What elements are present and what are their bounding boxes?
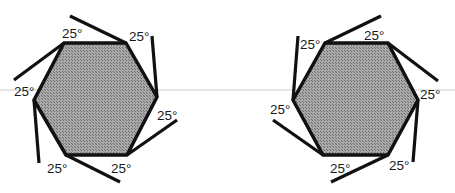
left-hexagon [34, 43, 157, 155]
right-hexagon-group: 25° 25° 25° 25° 25° 25° [270, 16, 440, 182]
left-angle-label-2: 25° [129, 29, 149, 44]
right-angle-label-3: 25° [420, 87, 440, 102]
right-angle-label-6: 25° [270, 102, 290, 117]
right-angle-label-2: 25° [364, 28, 384, 43]
right-angle-label-4: 25° [389, 158, 409, 173]
left-angle-label-3: 25° [157, 108, 177, 123]
left-angle-label-1: 25° [62, 26, 82, 41]
hexagon-angle-diagram: 25° 25° 25° 25° 25° 25° 25° 25° 25° 25° … [0, 0, 455, 193]
left-angle-label-5: 25° [47, 161, 67, 176]
left-angle-label-6: 25° [14, 84, 34, 99]
right-angle-label-5: 25° [330, 161, 350, 176]
left-angle-label-4: 25° [111, 161, 131, 176]
right-hexagon [293, 43, 418, 155]
right-angle-label-1: 25° [300, 37, 320, 52]
left-hexagon-group: 25° 25° 25° 25° 25° 25° [14, 16, 177, 182]
